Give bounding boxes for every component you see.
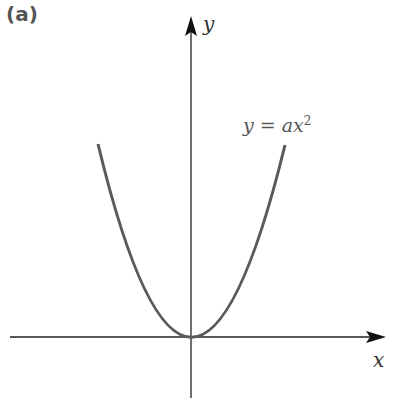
- parabola-diagram: [0, 0, 401, 401]
- x-axis-label: x: [373, 348, 384, 372]
- y-axis: [185, 16, 197, 398]
- curve-equation-label: y = ax2: [243, 114, 311, 136]
- y-axis-label: y: [203, 12, 214, 36]
